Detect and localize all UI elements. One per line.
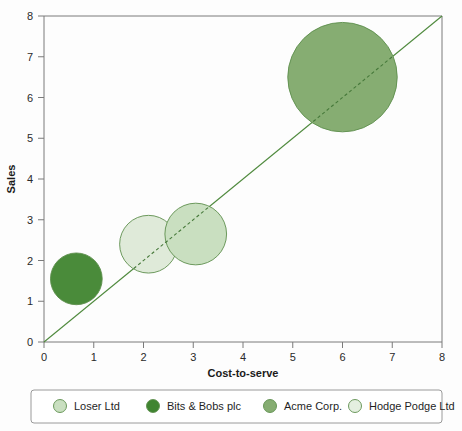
legend-swatch-loser-ltd[interactable] (54, 400, 67, 413)
x-axis-title: Cost-to-serve (208, 367, 279, 379)
y-tick-label: 8 (27, 10, 33, 22)
bubble-acme-corp[interactable] (288, 22, 397, 131)
y-tick-label: 1 (27, 295, 33, 307)
y-tick-label: 4 (27, 173, 33, 185)
bubble-series (50, 22, 397, 304)
legend-label-loser-ltd: Loser Ltd (74, 400, 120, 412)
x-tick-label: 4 (240, 351, 246, 363)
bubble-chart: 0 1 2 3 4 5 6 7 8 0 1 2 3 4 (0, 0, 462, 431)
legend-label-acme-corp: Acme Corp. (284, 400, 342, 412)
legend-swatch-bits-and-bobs[interactable] (147, 400, 160, 413)
x-tick-label: 7 (389, 351, 395, 363)
x-tick-label: 8 (439, 351, 445, 363)
bubble-loser-ltd[interactable] (165, 203, 227, 265)
chart-canvas: 0 1 2 3 4 5 6 7 8 0 1 2 3 4 (0, 0, 462, 431)
bubble-bits-and-bobs[interactable] (50, 253, 102, 305)
y-tick-label: 0 (27, 336, 33, 348)
legend-label-hodge-podge: Hodge Podge Ltd (369, 400, 455, 412)
x-axis-tick-labels: 0 1 2 3 4 5 6 7 8 (41, 351, 445, 363)
y-axis-tick-labels: 0 1 2 3 4 5 6 7 8 (27, 10, 33, 348)
x-axis-ticks (44, 342, 442, 348)
y-tick-label: 7 (27, 51, 33, 63)
x-tick-label: 3 (190, 351, 196, 363)
x-tick-label: 1 (91, 351, 97, 363)
legend-label-bits-and-bobs: Bits & Bobs plc (167, 400, 241, 412)
x-tick-label: 2 (140, 351, 146, 363)
y-axis-ticks (38, 16, 44, 342)
y-tick-label: 5 (27, 132, 33, 144)
legend-swatch-acme-corp[interactable] (264, 400, 277, 413)
y-tick-label: 3 (27, 214, 33, 226)
x-tick-label: 5 (290, 351, 296, 363)
x-tick-label: 6 (339, 351, 345, 363)
x-tick-label: 0 (41, 351, 47, 363)
y-tick-label: 6 (27, 92, 33, 104)
legend: Loser Ltd Bits & Bobs plc Acme Corp. Hod… (31, 390, 455, 423)
legend-swatch-hodge-podge[interactable] (349, 400, 362, 413)
y-tick-label: 2 (27, 255, 33, 267)
y-axis-title: Sales (5, 165, 17, 194)
